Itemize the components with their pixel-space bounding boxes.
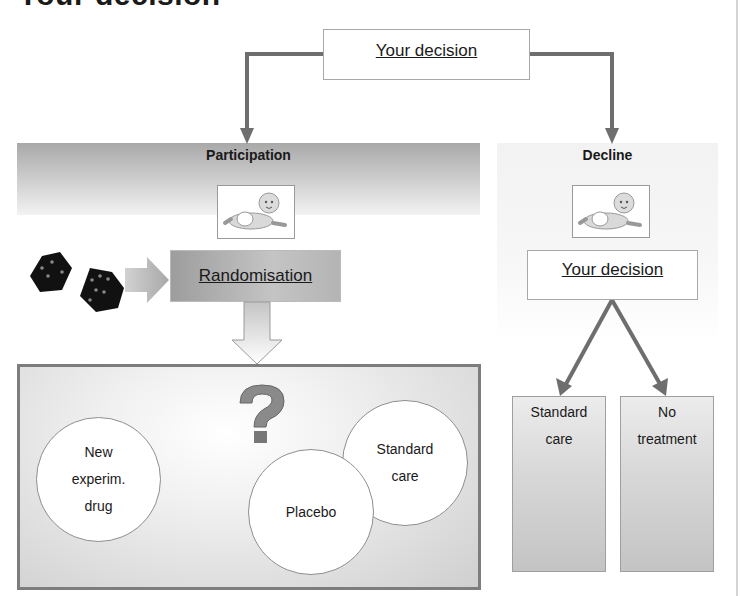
option-placebo[interactable]: Placebo — [248, 449, 374, 575]
option-label: Standard — [513, 399, 605, 426]
option-label: care — [391, 463, 418, 490]
treatment-groups-box: New experim. drug Standard care Placebo — [17, 364, 481, 590]
option-label: experim. — [72, 466, 126, 493]
option-new-experimental-drug[interactable]: New experim. drug — [36, 417, 161, 542]
decline-option-standard-care[interactable]: Standard care — [512, 396, 606, 572]
question-mark-icon — [232, 381, 292, 451]
option-label: Placebo — [286, 499, 337, 526]
option-label: Standard — [377, 436, 434, 463]
option-label: care — [513, 426, 605, 453]
decline-decision-box[interactable]: Your decision — [527, 250, 698, 300]
option-label: New — [84, 439, 112, 466]
option-label: No — [621, 399, 713, 426]
decline-option-no-treatment[interactable]: No treatment — [620, 396, 714, 572]
option-label: treatment — [621, 426, 713, 453]
option-label: drug — [84, 493, 112, 520]
decline-decision-label[interactable]: Your decision — [562, 260, 663, 280]
